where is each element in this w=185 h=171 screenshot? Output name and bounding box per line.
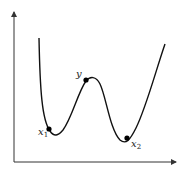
label-x2: x2 [131, 138, 141, 151]
diagram-canvas: x1 y x2 [0, 0, 185, 171]
label-y: y [75, 68, 82, 79]
point-y [83, 77, 88, 82]
function-curve [39, 38, 165, 142]
label-x1: x1 [38, 126, 48, 139]
point-x2 [124, 135, 129, 140]
